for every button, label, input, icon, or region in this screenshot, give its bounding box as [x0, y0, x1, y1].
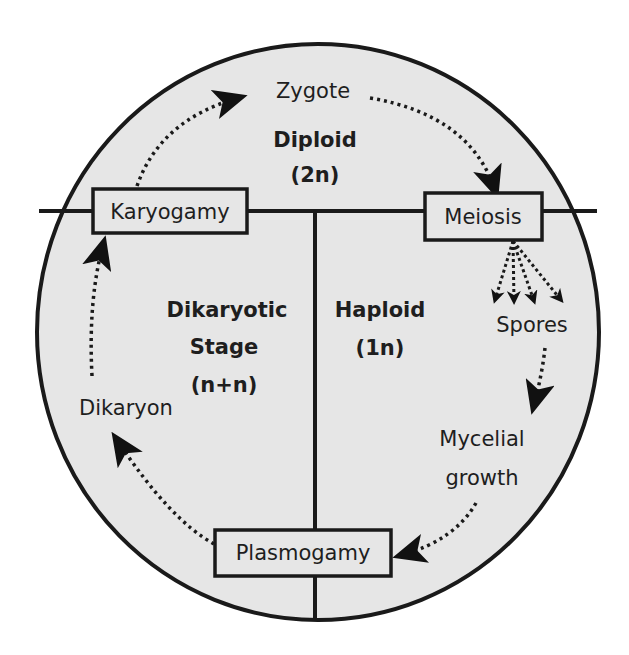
diploid-label: Diploid [273, 128, 357, 152]
dikaryotic-label-line2: Stage [190, 335, 259, 359]
mycelial-label-line1: Mycelial [439, 427, 524, 451]
meiosis-label: Meiosis [444, 205, 521, 229]
spores-label: Spores [496, 313, 568, 337]
meiosis-box: Meiosis [425, 193, 542, 240]
haploid-ploidy: (1n) [356, 336, 405, 360]
plasmogamy-box: Plasmogamy [215, 530, 391, 576]
haploid-label: Haploid [335, 298, 426, 322]
diploid-ploidy: (2n) [291, 163, 340, 187]
zygote-label: Zygote [276, 79, 350, 103]
dikaryotic-ploidy: (n+n) [191, 373, 258, 397]
fungal-life-cycle-diagram: Karyogamy Meiosis Plasmogamy Zygote Dipl… [0, 0, 629, 655]
plasmogamy-label: Plasmogamy [236, 541, 371, 565]
mycelial-label-line2: growth [445, 466, 518, 490]
karyogamy-box: Karyogamy [93, 189, 247, 233]
karyogamy-label: Karyogamy [110, 200, 229, 224]
dikaryon-label: Dikaryon [79, 396, 173, 420]
dikaryotic-label-line1: Dikaryotic [167, 298, 288, 322]
